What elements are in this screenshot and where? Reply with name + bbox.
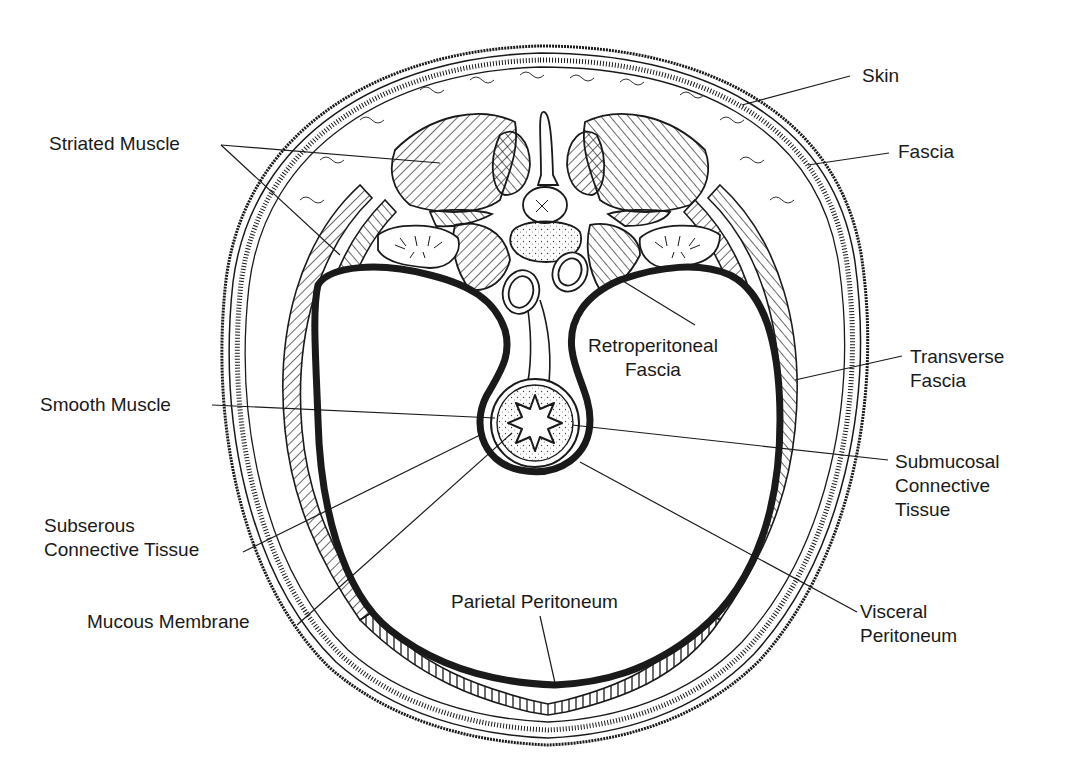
- label-text-line: Submucosal: [895, 450, 1000, 474]
- label-text-line: Transverse: [910, 345, 1004, 369]
- label-text-line: Mucous Membrane: [87, 610, 250, 634]
- label-fascia: Fascia: [898, 140, 954, 164]
- label-subserous-connective-tissue: SubserousConnective Tissue: [44, 514, 199, 562]
- peritoneum: [315, 267, 780, 685]
- label-mucous-membrane: Mucous Membrane: [87, 610, 250, 634]
- label-text-line: Skin: [862, 64, 899, 88]
- leader-line-transverse-fascia: [795, 356, 902, 380]
- label-retroperitoneal-fascia: RetroperitonealFascia: [588, 334, 718, 382]
- label-text-line: Connective: [895, 474, 1000, 498]
- label-text-line: Visceral: [860, 600, 957, 624]
- label-text-line: Connective Tissue: [44, 538, 199, 562]
- intestine: [491, 379, 579, 467]
- label-text-line: Parietal Peritoneum: [451, 590, 618, 614]
- label-parietal-peritoneum: Parietal Peritoneum: [451, 590, 618, 614]
- label-text-line: Subserous: [44, 514, 199, 538]
- label-text-line: Tissue: [895, 498, 1000, 522]
- label-skin: Skin: [862, 64, 899, 88]
- label-text-line: Fascia: [898, 140, 954, 164]
- anatomy-cross-section-drawing: [0, 0, 1067, 773]
- leader-line-skin: [742, 76, 850, 105]
- label-striated-muscle: Striated Muscle: [49, 132, 180, 156]
- label-text-line: Fascia: [588, 358, 718, 382]
- label-text-line: Striated Muscle: [49, 132, 180, 156]
- label-submucosal-connective-tissue: SubmucosalConnectiveTissue: [895, 450, 1000, 522]
- label-transverse-fascia: TransverseFascia: [910, 345, 1004, 393]
- leader-line-striated-muscle: [221, 145, 340, 255]
- label-text-line: Retroperitoneal: [588, 334, 718, 358]
- label-text-line: Fascia: [910, 369, 1004, 393]
- label-text-line: Smooth Muscle: [40, 393, 171, 417]
- label-text-line: Peritoneum: [860, 624, 957, 648]
- label-smooth-muscle: Smooth Muscle: [40, 393, 171, 417]
- label-visceral-peritoneum: VisceralPeritoneum: [860, 600, 957, 648]
